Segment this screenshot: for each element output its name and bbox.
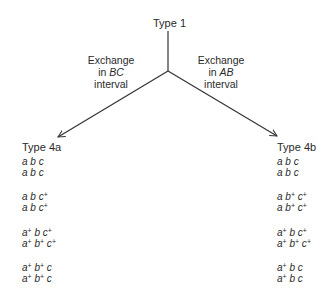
edge-label-line: in BC (86, 66, 136, 78)
genotype-row: a b c (22, 167, 44, 178)
edge-label-left: Exchange in BC interval (86, 54, 136, 90)
type-4b-label: Type 4b (277, 141, 316, 153)
edge-label-line: Exchange (196, 54, 246, 66)
genotype-row: a b c+ (22, 202, 48, 213)
genotype-row: a+ b c (277, 262, 303, 273)
genotype-row: a+ b c+ (277, 227, 307, 238)
genotype-row: a+ b+ c+ (22, 238, 56, 249)
genotype-row: a+ b c+ (22, 227, 52, 238)
genotype-row: a b+ c+ (277, 191, 307, 202)
edge-label-right: Exchange in AB interval (196, 54, 246, 90)
type-4a-label: Type 4a (22, 141, 61, 153)
root-label: Type 1 (153, 17, 186, 29)
edge-label-line: Exchange (86, 54, 136, 66)
genotype-row: a b c (277, 156, 299, 167)
genotype-row: a+ b+ c+ (277, 238, 311, 249)
genotype-row: a b c+ (22, 191, 48, 202)
genotype-row: a+ b+ c (22, 262, 52, 273)
edge-label-line: in AB (196, 66, 246, 78)
genotype-row: a b c (22, 156, 44, 167)
genotype-row: a b c (277, 167, 299, 178)
genotype-row: a+ b+ c (22, 273, 52, 284)
genotype-row: a+ b c (277, 273, 303, 284)
genotype-row: a b+ c+ (277, 202, 307, 213)
edge-label-line: interval (196, 78, 246, 90)
edge-label-line: interval (86, 78, 136, 90)
